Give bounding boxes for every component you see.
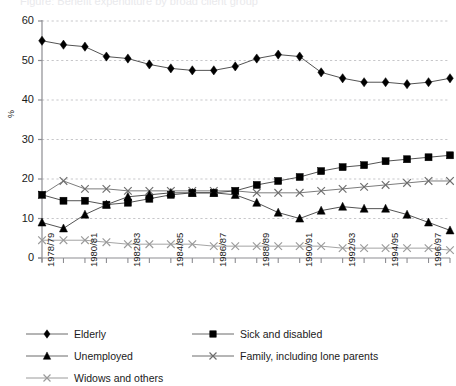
legend-label: Widows and others (74, 372, 163, 384)
series-sick-and-disabled (39, 152, 454, 208)
marker-diamond (425, 78, 432, 87)
marker-square (81, 197, 88, 204)
x-icon (24, 372, 70, 384)
triangle-icon (24, 350, 70, 362)
y-tick-label: 50 (8, 55, 34, 66)
x-tick-label: 1992/93 (347, 233, 357, 267)
marker-diamond (39, 36, 46, 45)
marker-diamond (168, 64, 175, 73)
marker-diamond (339, 74, 346, 83)
legend-label: Elderly (74, 328, 106, 340)
marker-square (210, 331, 216, 337)
series-line (42, 41, 450, 84)
x-tick-label: 1988/89 (261, 233, 271, 267)
y-tick-label: 20 (8, 173, 34, 184)
marker-diamond (232, 62, 239, 71)
marker-diamond (103, 52, 110, 61)
legend-label: Sick and disabled (240, 328, 322, 340)
diamond-icon (24, 328, 70, 340)
y-tick-label: 30 (8, 134, 34, 145)
x-tick-label: 1980/81 (89, 233, 99, 267)
marker-diamond (253, 54, 260, 63)
marker-triangle (425, 218, 433, 226)
x-tick-label: 1982/83 (132, 233, 142, 267)
legend-label: Family, including lone parents (240, 350, 378, 362)
x-tick-label: 1990/91 (304, 233, 314, 267)
marker-square (447, 152, 454, 159)
marker-diamond (210, 66, 217, 75)
marker-square (339, 164, 346, 171)
marker-square (296, 174, 303, 181)
marker-triangle (274, 208, 282, 216)
marker-diamond (382, 78, 389, 87)
marker-diamond (447, 74, 454, 83)
marker-diamond (361, 78, 368, 87)
marker-square (60, 197, 67, 204)
marker-square (404, 156, 411, 163)
x-tick-label: 1996/97 (433, 233, 443, 267)
series-elderly (39, 36, 454, 89)
marker-triangle (38, 218, 46, 226)
marker-triangle (253, 198, 261, 206)
x-icon (190, 350, 236, 362)
marker-square (275, 177, 282, 184)
series-unemployed (38, 188, 454, 234)
marker-diamond (60, 40, 67, 49)
marker-square (318, 168, 325, 175)
marker-triangle (81, 210, 89, 218)
marker-square (361, 162, 368, 169)
marker-diamond (404, 80, 411, 89)
marker-diamond (125, 54, 132, 63)
chart-legend: ElderlySick and disabledUnemployedFamily… (0, 326, 456, 381)
square-icon (190, 328, 236, 340)
marker-diamond (189, 66, 196, 75)
marker-square (382, 158, 389, 165)
marker-square (39, 191, 46, 198)
x-tick-label: 1984/85 (175, 233, 185, 267)
marker-diamond (82, 42, 89, 51)
y-tick-label: 60 (8, 15, 34, 26)
marker-triangle (339, 202, 347, 210)
y-tick-label: 10 (8, 213, 34, 224)
legend-label: Unemployed (74, 350, 133, 362)
y-tick-label: 40 (8, 94, 34, 105)
x-tick-label: 1978/79 (46, 233, 56, 267)
marker-square (425, 154, 432, 161)
x-tick-label: 1986/87 (218, 233, 228, 267)
marker-diamond (146, 60, 153, 69)
marker-diamond (296, 52, 303, 61)
marker-diamond (44, 330, 50, 338)
marker-diamond (275, 50, 282, 59)
marker-square (253, 181, 260, 188)
y-tick-label: 0 (8, 252, 34, 263)
marker-triangle (446, 226, 454, 234)
marker-diamond (318, 68, 325, 77)
x-tick-label: 1994/95 (390, 233, 400, 267)
